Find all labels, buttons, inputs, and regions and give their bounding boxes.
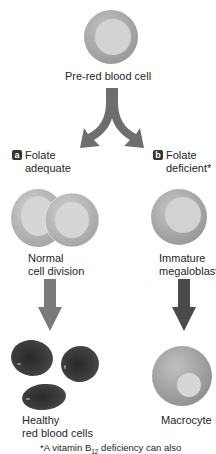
pre-red-blood-cell-icon bbox=[83, 9, 139, 65]
split-arrow-icon bbox=[72, 88, 152, 150]
macrocyte-label: Macrocyte bbox=[161, 414, 212, 427]
badge-a: a bbox=[12, 150, 22, 160]
healthy-red-blood-cells-icon bbox=[10, 340, 102, 412]
macrocyte-icon bbox=[151, 345, 213, 407]
down-arrow-b-icon bbox=[172, 279, 196, 331]
branch-a-condition: aFolate adequate bbox=[12, 149, 71, 175]
branch-b-condition: bFolate deficient* bbox=[153, 149, 211, 175]
megaloblast-icon bbox=[150, 188, 208, 246]
footnote: *A vitamin B12 deficiency can also bbox=[40, 442, 181, 454]
dividing-cells-icon bbox=[10, 188, 100, 248]
immature-megaloblast-label: Immature megaloblast bbox=[159, 252, 216, 278]
healthy-red-blood-cells-label: Healthy red blood cells bbox=[22, 414, 93, 440]
down-arrow-a-icon bbox=[38, 279, 62, 331]
normal-cell-division-label: Normal cell division bbox=[28, 252, 84, 278]
badge-b: b bbox=[153, 150, 163, 160]
pre-red-blood-cell-label: Pre-red blood cell bbox=[0, 70, 216, 83]
